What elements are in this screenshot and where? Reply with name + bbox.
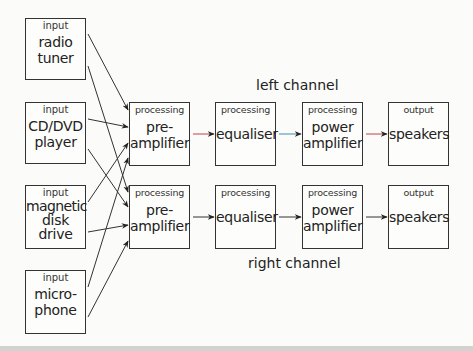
left-power-amplifier: processing power amplifier: [302, 102, 363, 166]
box-label: equaliser: [216, 126, 275, 142]
box-label: radio: [26, 34, 85, 50]
box-label: player: [26, 134, 85, 150]
left-preamplifier: processing pre- amplifier: [129, 102, 190, 166]
arrow-disk-to-right-preamp: [88, 225, 128, 232]
right-preamplifier: processing pre- amplifier: [129, 185, 190, 249]
input-microphone: input micro- phone: [25, 270, 86, 334]
input-cd-dvd-player: input CD/DVD player: [25, 102, 86, 164]
box-label: speakers: [389, 209, 448, 225]
category-label: input: [26, 104, 85, 115]
box-label: amplifier: [130, 135, 189, 151]
box-label: drive: [26, 227, 85, 241]
category-label: processing: [216, 187, 275, 198]
category-label: input: [26, 20, 85, 31]
arrow-radio-to-left-preamp: [88, 34, 128, 110]
box-label: speakers: [389, 126, 448, 142]
box-label: magnetic: [26, 199, 85, 213]
category-label: input: [26, 272, 85, 283]
left-speakers: output speakers: [388, 102, 449, 166]
category-label: input: [26, 187, 85, 198]
box-label: CD/DVD: [26, 118, 85, 134]
box-label: equaliser: [216, 209, 275, 225]
category-label: processing: [303, 104, 362, 115]
right-equaliser: processing equaliser: [215, 185, 276, 249]
right-channel-label: right channel: [248, 255, 341, 271]
input-radio-tuner: input radio tuner: [25, 18, 86, 80]
box-label: pre-: [130, 119, 189, 135]
box-label: micro-: [26, 286, 85, 302]
category-label: processing: [130, 187, 189, 198]
audio-system-block-diagram: input radio tuner input CD/DVD player in…: [0, 0, 473, 351]
box-label: phone: [26, 302, 85, 318]
arrow-mic-to-right-preamp: [88, 241, 128, 317]
box-label: tuner: [26, 50, 85, 66]
box-label: pre-: [130, 202, 189, 218]
right-power-amplifier: processing power amplifier: [302, 185, 363, 249]
category-label: processing: [130, 104, 189, 115]
left-channel-label: left channel: [256, 77, 339, 93]
box-label: amplifier: [303, 135, 362, 151]
box-label: disk: [26, 213, 85, 227]
right-speakers: output speakers: [388, 185, 449, 249]
box-label: power: [303, 119, 362, 135]
category-label: output: [389, 104, 448, 115]
left-equaliser: processing equaliser: [215, 102, 276, 166]
category-label: output: [389, 187, 448, 198]
box-label: amplifier: [130, 218, 189, 234]
category-label: processing: [303, 187, 362, 198]
arrow-cd-to-left-preamp: [88, 119, 128, 127]
category-label: processing: [216, 104, 275, 115]
box-label: amplifier: [303, 218, 362, 234]
box-label: power: [303, 202, 362, 218]
bottom-edge-strip: [0, 346, 473, 351]
input-magnetic-disk-drive: input magnetic disk drive: [25, 185, 86, 249]
